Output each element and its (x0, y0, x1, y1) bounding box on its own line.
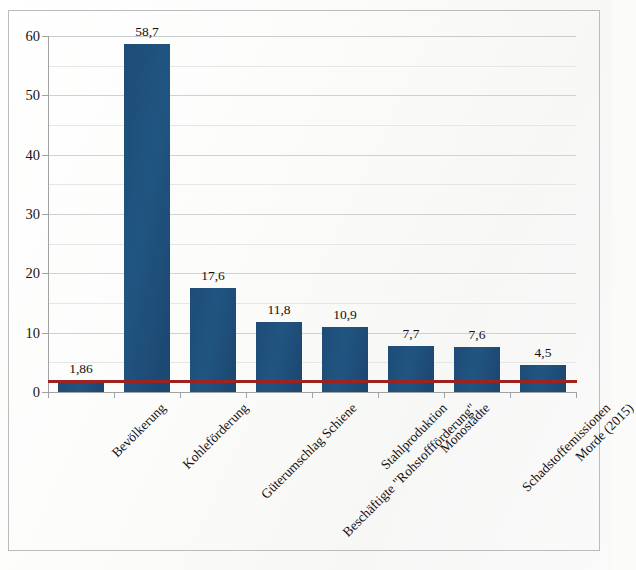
y-tick-label: 40 (8, 148, 40, 163)
x-tick-mark (510, 392, 511, 398)
y-tick-label: 10 (8, 326, 40, 341)
x-tick-mark (576, 392, 577, 398)
bar (388, 346, 433, 392)
x-tick-mark (312, 392, 313, 398)
y-tick-mark (42, 214, 48, 215)
bar (190, 288, 235, 392)
y-axis-line (48, 36, 49, 393)
y-tick-mark (42, 36, 48, 37)
y-tick-mark (42, 273, 48, 274)
y-tick-mark (42, 333, 48, 334)
x-tick-mark (180, 392, 181, 398)
x-tick-mark (48, 392, 49, 398)
bar-value-label: 7,6 (437, 328, 517, 342)
bar (520, 365, 565, 392)
y-tick-mark (42, 95, 48, 96)
y-tick-label: 20 (8, 266, 40, 281)
reference-line (48, 380, 577, 383)
bar-value-label: 58,7 (107, 25, 187, 39)
bar-value-label: 1,86 (41, 362, 121, 376)
x-tick-mark (378, 392, 379, 398)
y-tick-mark (42, 155, 48, 156)
y-tick-label: 30 (8, 207, 40, 222)
bar-value-label: 4,5 (503, 346, 583, 360)
x-tick-mark (114, 392, 115, 398)
y-tick-label: 60 (8, 29, 40, 44)
x-tick-mark (246, 392, 247, 398)
x-tick-mark (444, 392, 445, 398)
bar-value-label: 10,9 (305, 308, 385, 322)
bar (454, 347, 499, 392)
bar (124, 44, 169, 392)
y-tick-label: 0 (8, 385, 40, 400)
bar-value-label: 17,6 (173, 269, 253, 283)
y-tick-label: 50 (8, 88, 40, 103)
